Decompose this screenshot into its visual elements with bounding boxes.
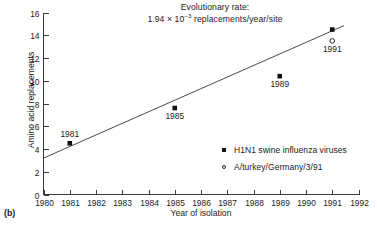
- x-tick-labels: 1980198119821983198419851986198719881989…: [35, 198, 369, 208]
- y-tick-label: 6: [35, 122, 40, 132]
- x-tick-label: 1989: [271, 198, 290, 208]
- y-tick-label: 8: [35, 100, 40, 110]
- x-tick-label: 1987: [218, 198, 237, 208]
- open-circle-icon: [222, 158, 234, 176]
- x-tick-label: 1982: [87, 198, 106, 208]
- data-point-square: [172, 106, 177, 111]
- data-point-labels: 1981198519891991: [60, 44, 341, 139]
- data-point-square: [67, 141, 72, 146]
- y-tick-label: 16: [30, 9, 40, 19]
- data-point-label: 1981: [60, 129, 79, 139]
- y-tick-label: 10: [30, 77, 40, 87]
- data-point-label: 1991: [323, 44, 342, 54]
- x-tick-label: 1984: [140, 198, 159, 208]
- legend-label-turkey: A/turkey/Germany/3/91: [234, 162, 322, 172]
- regression-line-group: [44, 26, 345, 159]
- x-tick-marks: [45, 190, 360, 195]
- data-point-square: [277, 74, 282, 79]
- y-tick-label: 4: [35, 145, 40, 155]
- x-tick-label: 1981: [61, 198, 80, 208]
- y-tick-label: 2: [35, 168, 40, 178]
- data-point-label: 1985: [165, 111, 184, 121]
- filled-square-icon: [222, 141, 234, 159]
- x-tick-label: 1985: [166, 198, 185, 208]
- data-point-square: [330, 27, 335, 32]
- x-tick-label: 1990: [297, 198, 316, 208]
- x-tick-label: 1991: [323, 198, 342, 208]
- figure-panel-b: Evolutionary rate: 1.94 × 10–3 replaceme…: [0, 0, 377, 226]
- y-tick-marks: [44, 14, 49, 196]
- x-tick-label: 1988: [245, 198, 264, 208]
- x-tick-label: 1986: [192, 198, 211, 208]
- plot-area: 0246810121416 19801981198219831984198519…: [0, 0, 377, 226]
- x-tick-label: 1983: [113, 198, 132, 208]
- y-tick-label: 12: [30, 54, 40, 64]
- data-point-label: 1989: [270, 79, 289, 89]
- y-tick-labels: 0246810121416: [30, 9, 40, 201]
- regression-line: [44, 26, 345, 159]
- data-point-circle: [330, 39, 335, 44]
- legend-label-h1n1: H1N1 swine influenza viruses: [234, 145, 347, 155]
- legend-item-turkey: A/turkey/Germany/3/91: [222, 158, 347, 175]
- x-tick-label: 1992: [350, 198, 369, 208]
- data-points-group: [67, 27, 334, 145]
- legend: H1N1 swine influenza viruses A/turkey/Ge…: [222, 141, 347, 175]
- legend-item-h1n1: H1N1 swine influenza viruses: [222, 141, 347, 158]
- x-tick-label: 1980: [35, 198, 54, 208]
- y-tick-label: 14: [30, 31, 40, 41]
